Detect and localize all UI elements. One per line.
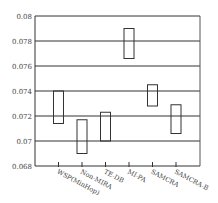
range-box [54,91,64,124]
y-tick-label: 0.068 [12,163,32,171]
y-tick-label: 0.078 [12,38,32,46]
range-box [124,29,134,59]
range-box [77,120,87,154]
y-tick-label: 0.072 [12,113,32,121]
y-tick-label: 0.07 [16,138,32,146]
floating-bar-chart: 0.0680.070.0720.0740.0760.0780.08WSP(Min… [0,0,218,203]
x-tick-label: MI-PA [126,168,148,185]
y-tick-label: 0.08 [16,13,32,21]
range-box [148,85,158,106]
y-tick-label: 0.076 [12,63,33,71]
y-tick-label: 0.074 [12,88,33,96]
range-box [171,105,181,134]
range-box [101,112,111,141]
